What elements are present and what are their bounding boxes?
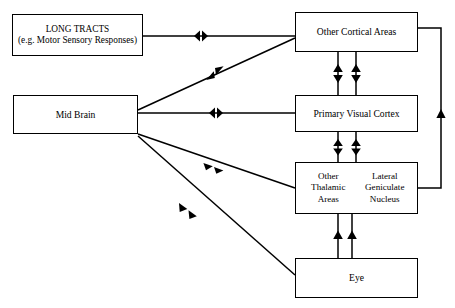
- node-other-cortical-areas-label-line-1: Other Cortical Areas: [317, 26, 396, 37]
- connector-mid-brain-thalamic-lgn: [138, 134, 295, 188]
- node-mid-brain[interactable]: Mid Brain: [13, 95, 138, 134]
- node-primary-visual-cortex[interactable]: Primary Visual Cortex: [295, 95, 418, 132]
- diagram-canvas: LONG TRACTS (e.g. Motor Sensory Response…: [0, 0, 455, 308]
- node-other-cortical-areas-label: Other Cortical Areas: [317, 26, 396, 37]
- node-mid-brain-label-line-1: Mid Brain: [56, 109, 96, 120]
- connector-mid-brain-eye: [138, 136, 295, 275]
- node-thalamic-lgn[interactable]: Other Thalamic Areas Lateral Geniculate …: [295, 162, 418, 214]
- connector-mid-brain-primary-visual-cortex: [138, 108, 295, 119]
- node-long-tracts-label: LONG TRACTS (e.g. Motor Sensory Response…: [18, 24, 137, 46]
- node-other-thalamic-areas-label-line-1: Other: [300, 171, 357, 182]
- connector-mid-brain-other-cortical-areas: [138, 38, 295, 110]
- node-lateral-geniculate-nucleus-label-line-3: Nucleus: [357, 194, 414, 205]
- connector-primary-visual-cortex-thalamic-lgn: [333, 132, 361, 162]
- connector-thalamic-lgn-other-cortical-areas-loop: [418, 28, 446, 188]
- connector-eye-thalamic-lgn: [333, 214, 357, 258]
- node-other-cortical-areas[interactable]: Other Cortical Areas: [295, 12, 418, 52]
- node-other-thalamic-areas-label: Other Thalamic Areas: [300, 171, 357, 204]
- node-other-thalamic-areas-label-line-2: Thalamic: [300, 182, 357, 193]
- node-long-tracts-label-line-2: (e.g. Motor Sensory Responses): [18, 35, 137, 46]
- node-primary-visual-cortex-label: Primary Visual Cortex: [313, 108, 399, 119]
- node-eye-label-line-1: Eye: [349, 272, 364, 283]
- node-long-tracts[interactable]: LONG TRACTS (e.g. Motor Sensory Response…: [12, 14, 143, 56]
- node-mid-brain-label: Mid Brain: [56, 109, 96, 120]
- node-other-thalamic-areas-label-line-3: Areas: [300, 194, 357, 205]
- connector-long-tracts-other-cortical-areas: [143, 31, 295, 42]
- node-lateral-geniculate-nucleus-label-line-2: Geniculate: [357, 182, 414, 193]
- node-long-tracts-label-line-1: LONG TRACTS: [18, 24, 137, 35]
- node-lateral-geniculate-nucleus-label-line-1: Lateral: [357, 171, 414, 182]
- node-eye[interactable]: Eye: [295, 258, 418, 298]
- node-primary-visual-cortex-label-line-1: Primary Visual Cortex: [313, 108, 399, 119]
- node-lateral-geniculate-nucleus-label: Lateral Geniculate Nucleus: [357, 171, 414, 204]
- node-eye-label: Eye: [349, 272, 364, 283]
- connector-other-cortical-areas-primary-visual-cortex: [333, 52, 361, 95]
